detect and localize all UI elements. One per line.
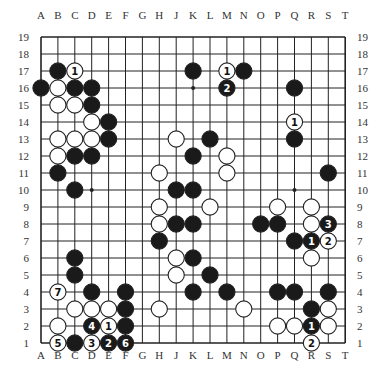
row-label: 4 [24,286,30,298]
row-label: 3 [357,303,363,315]
stone-circle [50,131,66,147]
stone-circle [185,250,201,266]
column-label: O [257,349,265,361]
stone-circle [151,216,167,232]
white-stone-J6 [168,250,184,266]
white-stone-S7: 2 [320,233,336,249]
white-stone-C17: 1 [67,63,83,79]
white-stone-C13 [67,131,83,147]
column-label: K [189,9,197,21]
stone-circle [202,267,218,283]
move-number: 1 [308,321,315,332]
column-label: T [342,9,349,21]
black-stone-D16 [84,80,100,96]
stone-circle [67,148,83,164]
stone-circle [286,233,302,249]
stone-circle [84,97,100,113]
stone-circle [219,148,235,164]
black-stone-M16: 2 [219,80,235,96]
stone-circle [50,97,66,113]
white-stone-B12 [50,148,66,164]
row-label: 7 [357,235,363,247]
star-point [90,188,94,192]
column-label: Q [291,9,299,21]
stone-circle [236,301,252,317]
row-label: 14 [18,116,30,128]
row-label: 13 [18,133,30,145]
black-stone-D15 [84,97,100,113]
white-stone-S3 [320,301,336,317]
stone-circle [84,114,100,130]
stone-circle [117,284,133,300]
stone-circle [50,318,66,334]
stone-circle [286,318,302,334]
column-label: M [222,349,232,361]
white-stone-D13 [84,131,100,147]
column-label: M [222,9,232,21]
star-point [293,188,297,192]
black-stone-M4 [219,284,235,300]
white-stone-P2 [270,318,286,334]
row-label: 10 [357,184,369,196]
stone-circle [270,216,286,232]
row-label: 6 [357,252,363,264]
white-stone-R8 [303,216,319,232]
move-number: 3 [325,219,332,230]
stone-circle [50,165,66,181]
row-label: 11 [357,167,368,179]
black-stone-K6 [185,250,201,266]
black-stone-Q4 [286,284,302,300]
white-stone-P9 [270,199,286,215]
stone-circle [303,216,319,232]
move-number: 1 [71,66,78,77]
white-stone-R9 [303,199,319,215]
column-label: D [88,9,96,21]
column-label: H [155,349,163,361]
stone-circle [84,148,100,164]
stone-circle [270,284,286,300]
black-stone-J10 [168,182,184,198]
stone-circle [219,165,235,181]
black-stone-K4 [185,284,201,300]
black-stone-J8 [168,216,184,232]
black-stone-F3 [117,301,133,317]
white-stone-M12 [219,148,235,164]
black-stone-S8: 3 [320,216,336,232]
stone-circle [67,250,83,266]
stone-circle [168,131,184,147]
move-number: 1 [308,236,315,247]
stone-circle [320,301,336,317]
row-label: 2 [357,320,363,332]
white-stone-M17: 1 [219,63,235,79]
row-label: 6 [24,252,30,264]
column-label: F [122,9,128,21]
stone-circle [303,199,319,215]
stone-circle [202,131,218,147]
stone-circle [253,216,269,232]
stone-circle [303,301,319,317]
black-stone-E13 [101,131,117,147]
move-number: 2 [325,236,332,247]
row-label: 15 [357,99,369,111]
black-stone-R7: 1 [303,233,319,249]
white-stone-E2: 1 [101,318,117,334]
row-label: 15 [18,99,30,111]
black-stone-C1 [67,335,83,351]
stone-circle [168,216,184,232]
black-stone-F1: 6 [117,335,133,351]
row-label: 9 [357,201,363,213]
stone-circle [320,165,336,181]
stone-circle [236,63,252,79]
move-number: 2 [308,338,315,349]
black-stone-A16 [33,80,49,96]
stone-circle [151,301,167,317]
stone-circle [219,284,235,300]
white-stone-D14 [84,114,100,130]
column-label: J [174,9,179,21]
stone-circle [286,284,302,300]
stone-circle [101,131,117,147]
row-label: 17 [357,65,369,77]
black-stone-R3 [303,301,319,317]
white-stone-D1: 3 [84,335,100,351]
row-labels-right: 19181716151413121110987654321 [357,31,369,349]
